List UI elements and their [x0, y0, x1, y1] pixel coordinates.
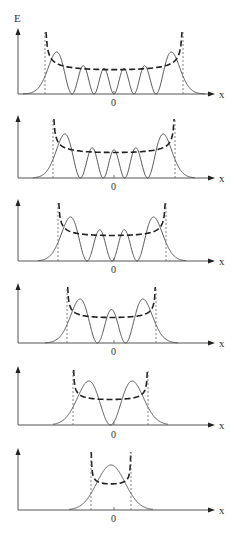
- probability-density-curve: [69, 465, 153, 510]
- y-axis-arrow-icon: [16, 283, 21, 290]
- origin-label: 0: [111, 513, 116, 524]
- probability-density-curve: [45, 299, 178, 343]
- x-axis-arrow-icon: [208, 508, 215, 513]
- classical-probability-curve: [59, 203, 165, 236]
- x-axis-label: x: [219, 504, 225, 516]
- probability-density-curve: [53, 381, 168, 425]
- panel-n4: x0: [16, 115, 226, 192]
- origin-label: 0: [111, 97, 116, 108]
- x-axis-arrow-icon: [208, 259, 215, 264]
- panel-n5: x0: [16, 28, 226, 108]
- y-axis-arrow-icon: [16, 199, 21, 206]
- panels-group: x0x0x0x0x0x0: [16, 28, 226, 524]
- origin-label: 0: [111, 264, 116, 275]
- classical-probability-curve: [68, 287, 156, 318]
- x-axis-label: x: [219, 172, 225, 184]
- x-axis-label: x: [219, 337, 225, 349]
- y-axis-arrow-icon: [16, 28, 21, 35]
- classical-probability-curve: [54, 119, 174, 153]
- harmonic-oscillator-figure: E x0x0x0x0x0x0: [0, 0, 239, 533]
- x-axis-label: x: [219, 255, 225, 267]
- x-axis-label: x: [219, 88, 225, 100]
- y-axis-arrow-icon: [16, 448, 21, 455]
- classical-probability-curve: [91, 452, 130, 484]
- x-axis-arrow-icon: [208, 176, 215, 181]
- x-axis-arrow-icon: [208, 423, 215, 428]
- panel-n3: x0: [16, 199, 226, 275]
- origin-label: 0: [111, 346, 116, 357]
- probability-density-curve: [38, 217, 186, 261]
- x-axis-label: x: [219, 419, 225, 431]
- panel-n0: x0: [16, 448, 226, 524]
- x-axis-arrow-icon: [208, 92, 215, 97]
- classical-probability-curve: [46, 32, 182, 70]
- panel-n2: x0: [16, 283, 226, 357]
- origin-label: 0: [111, 181, 116, 192]
- panel-n1: x0: [16, 366, 226, 440]
- y-axis-label: E: [14, 12, 21, 24]
- y-axis-arrow-icon: [16, 115, 21, 122]
- diagram-canvas: E x0x0x0x0x0x0: [0, 0, 239, 533]
- x-axis-arrow-icon: [208, 341, 215, 346]
- y-axis-arrow-icon: [16, 366, 21, 373]
- origin-label: 0: [111, 429, 116, 440]
- classical-probability-curve: [74, 370, 148, 400]
